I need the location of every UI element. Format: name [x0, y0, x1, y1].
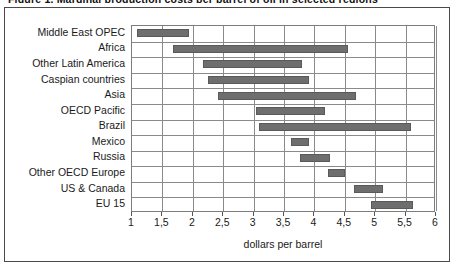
range-bar[interactable] — [259, 123, 411, 131]
category-label: Middle East OPEC — [0, 27, 125, 38]
range-bar[interactable] — [291, 138, 309, 146]
range-bar[interactable] — [208, 76, 309, 84]
bar-row — [132, 26, 434, 42]
range-bar[interactable] — [328, 169, 345, 177]
plot-area — [131, 25, 435, 212]
category-label: Africa — [0, 42, 125, 53]
category-label: Other OECD Europe — [0, 167, 125, 178]
range-bar[interactable] — [203, 60, 302, 68]
bar-row — [132, 197, 434, 213]
range-bar[interactable] — [173, 45, 348, 53]
category-label: Caspian countries — [0, 74, 125, 85]
bar-row — [132, 104, 434, 120]
x-axis-title: dollars per barrel — [131, 238, 435, 250]
bar-row — [132, 182, 434, 198]
range-bar[interactable] — [137, 29, 189, 37]
category-label: OECD Pacific — [0, 105, 125, 116]
range-bar[interactable] — [218, 92, 356, 100]
bar-row — [132, 120, 434, 136]
chart: Middle East OPECAfricaOther Latin Americ… — [0, 0, 456, 270]
x-tick-label: 6 — [415, 216, 455, 228]
category-label: Asia — [0, 89, 125, 100]
bar-row — [132, 166, 434, 182]
bar-row — [132, 57, 434, 73]
bar-row — [132, 73, 434, 89]
category-label: Russia — [0, 151, 125, 162]
category-label: EU 15 — [0, 198, 125, 209]
range-bar[interactable] — [354, 185, 383, 193]
figure-container: Figure 1. Marginal production costs per … — [0, 0, 456, 270]
bar-row — [132, 88, 434, 104]
bar-row — [132, 135, 434, 151]
category-label: Other Latin America — [0, 58, 125, 69]
category-label: Brazil — [0, 120, 125, 131]
range-bar[interactable] — [371, 201, 413, 209]
category-label: Mexico — [0, 136, 125, 147]
range-bar[interactable] — [256, 107, 325, 115]
bar-row — [132, 151, 434, 167]
range-bar[interactable] — [300, 154, 330, 162]
gridline-vertical — [436, 26, 437, 211]
bar-row — [132, 42, 434, 58]
category-label: US & Canada — [0, 183, 125, 194]
